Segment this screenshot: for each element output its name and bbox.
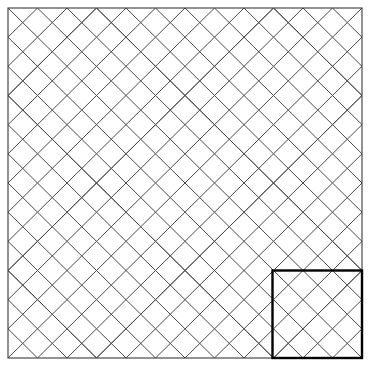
figure-root bbox=[0, 0, 369, 366]
tiling-pattern-figure bbox=[0, 0, 369, 366]
